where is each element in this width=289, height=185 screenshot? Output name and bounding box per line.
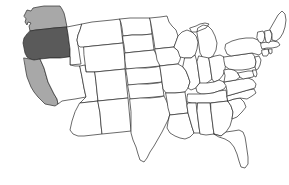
state-CO[interactable] bbox=[95, 69, 128, 101]
state-NM[interactable] bbox=[98, 98, 131, 134]
state-ND[interactable] bbox=[120, 18, 152, 36]
state-NE[interactable] bbox=[125, 50, 160, 69]
state-OK[interactable] bbox=[128, 82, 164, 99]
state-CT[interactable] bbox=[262, 49, 269, 56]
state-OR[interactable] bbox=[23, 27, 70, 60]
state-RI[interactable] bbox=[269, 49, 272, 54]
us-map-container bbox=[0, 0, 289, 185]
state-WY[interactable] bbox=[84, 43, 125, 72]
state-KS[interactable] bbox=[126, 66, 162, 85]
state-AR[interactable] bbox=[166, 92, 188, 115]
us-states-map[interactable] bbox=[0, 0, 289, 185]
